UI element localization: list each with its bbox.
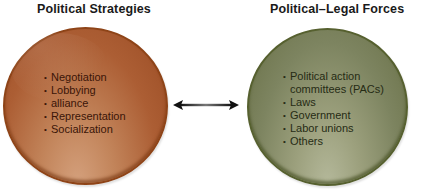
list-item: Laws	[283, 96, 384, 109]
list-item-continuation: committees (PACs)	[283, 83, 384, 96]
double-arrow-icon	[173, 99, 239, 111]
list-item: Others	[283, 135, 384, 148]
political-strategies-list: Negotiation Lobbying alliance Representa…	[44, 71, 126, 136]
list-item: Socialization	[44, 123, 126, 136]
political-strategies-title: Political Strategies	[37, 2, 151, 16]
list-item: alliance	[44, 97, 126, 110]
list-item: Representation	[44, 110, 126, 123]
political-legal-forces-title: Political–Legal Forces	[270, 2, 404, 16]
list-item: Labor unions	[283, 122, 384, 135]
political-legal-forces-list: Political action committees (PACs) Laws …	[283, 70, 384, 148]
list-item: Negotiation	[44, 71, 126, 84]
list-item: Lobbying	[44, 84, 126, 97]
list-item: Political action	[283, 70, 384, 83]
list-item: Government	[283, 109, 384, 122]
